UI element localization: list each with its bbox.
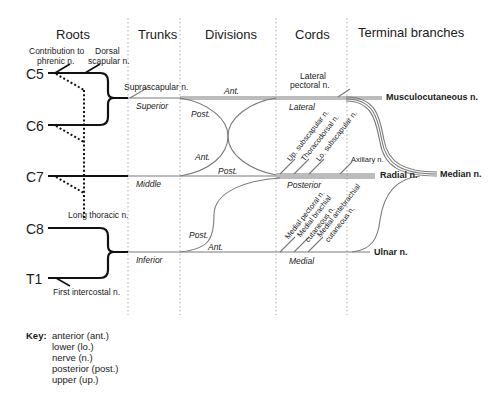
cord-lateral: Lateral	[289, 103, 315, 112]
label-axillary: Axillary n.	[351, 156, 384, 164]
roots-lines	[48, 64, 128, 286]
label-first-intercostal: First intercostal n.	[53, 288, 120, 297]
key-item: lower (lo.)	[52, 341, 119, 352]
label-long-thoracic: Long thoracic n.	[68, 211, 128, 220]
key-item: upper (up.)	[52, 374, 119, 385]
key-title: Key:	[26, 330, 47, 341]
label-dorsal-1: Dorsal	[95, 47, 120, 56]
header-divisions: Divisions	[205, 28, 257, 41]
key-item: anterior (ant.)	[52, 330, 119, 341]
root-c8: C8	[26, 222, 44, 236]
terminal-musculocutaneous: Musculocutaneous n.	[386, 93, 478, 102]
terminal-radial: Radial n.	[380, 171, 418, 180]
division-post-superior: Post.	[191, 110, 210, 119]
label-lateral-pectoral-2: pectoral n.	[290, 81, 330, 90]
cord-medial: Medial	[289, 257, 314, 266]
root-t1: T1	[26, 272, 42, 286]
cord-posterior: Posterior	[287, 181, 321, 190]
column-dividers	[128, 18, 347, 315]
trunk-middle: Middle	[136, 180, 161, 189]
terminal-median: Median n.	[440, 170, 482, 179]
header-roots: Roots	[56, 28, 90, 41]
division-post-inferior: Post.	[189, 231, 208, 240]
division-post-middle: Post.	[218, 167, 237, 176]
key-label: Key:	[26, 330, 47, 341]
key-item: posterior (post.)	[52, 363, 119, 374]
terminal-ulnar: Ulnar n.	[374, 248, 408, 257]
key-list: anterior (ant.) lower (lo.) nerve (n.) p…	[52, 330, 119, 385]
label-phrenic-2: phrenic n.	[37, 57, 74, 66]
long-thoracic-dotted	[56, 74, 84, 218]
key-item: nerve (n.)	[52, 352, 119, 363]
header-trunks: Trunks	[138, 28, 177, 41]
label-suprascapular: Suprascapular n.	[124, 83, 188, 92]
root-c7: C7	[26, 170, 44, 184]
division-ant-superior: Ant.	[224, 87, 239, 96]
header-terminal-branches: Terminal branches	[358, 26, 464, 39]
division-ant-middle: Ant.	[195, 153, 210, 162]
root-c5: C5	[26, 67, 44, 81]
division-ant-inferior: Ant.	[208, 243, 223, 252]
label-phrenic-1: Contribution to	[29, 47, 84, 56]
trunk-inferior: Inferior	[136, 256, 162, 265]
label-dorsal-2: scapular n.	[88, 57, 130, 66]
trunk-superior: Superior	[136, 102, 168, 111]
header-cords: Cords	[295, 28, 330, 41]
root-c6: C6	[26, 119, 44, 133]
